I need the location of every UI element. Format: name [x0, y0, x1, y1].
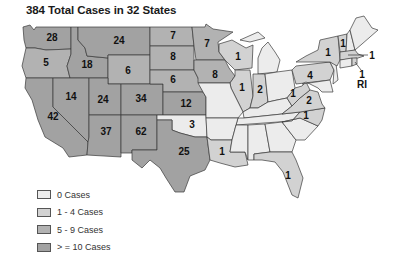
- label-AZ: 37: [100, 126, 112, 137]
- legend-item-high: > = 10 Cases: [37, 239, 111, 253]
- legend: 0 Cases 1 - 4 Cases 5 - 9 Cases > = 10 C…: [37, 186, 111, 253]
- legend-label: 1 - 4 Cases: [57, 207, 103, 217]
- label-PA: 4: [307, 70, 313, 81]
- label-IN: 2: [257, 84, 263, 95]
- label-WV: 1: [290, 88, 296, 99]
- legend-item-zero: 0 Cases: [37, 186, 111, 204]
- label-OR: 5: [43, 57, 49, 68]
- legend-label: > = 10 Cases: [57, 242, 111, 252]
- label-MN: 7: [204, 38, 210, 49]
- label-IL: 1: [239, 82, 245, 93]
- label-MT: 24: [113, 35, 125, 46]
- label-SD: 8: [170, 51, 176, 62]
- label-MA: 1: [369, 50, 375, 61]
- state-CT[interactable]: [340, 58, 352, 68]
- label-KS: 12: [180, 98, 192, 109]
- label-CA: 42: [47, 111, 59, 122]
- label-WA: 28: [46, 32, 58, 43]
- label-NC: 1: [303, 110, 309, 121]
- label-NY: 1: [325, 47, 331, 58]
- label-NE: 6: [170, 74, 176, 85]
- label-LA: 1: [219, 146, 225, 157]
- label-NM: 62: [135, 126, 147, 137]
- label-ND: 7: [170, 30, 176, 41]
- legend-label: 5 - 9 Cases: [57, 225, 103, 235]
- label-VT: 1: [340, 38, 346, 49]
- legend-swatch-zero: [37, 190, 51, 199]
- state-ME[interactable]: [350, 16, 378, 50]
- label-WI: 1: [235, 51, 241, 62]
- label-VA: 2: [306, 95, 312, 106]
- state-NY[interactable]: [296, 36, 340, 66]
- legend-swatch-high: [37, 243, 51, 252]
- label-WY: 6: [125, 65, 131, 76]
- label-UT: 24: [97, 94, 109, 105]
- label-FL: 1: [285, 170, 291, 181]
- state-RI[interactable]: [352, 58, 357, 66]
- label-IA: 8: [212, 69, 218, 80]
- state-FL[interactable]: [254, 152, 303, 198]
- label-CO: 34: [135, 93, 147, 104]
- label-NV: 14: [65, 91, 77, 102]
- legend-item-mid: 5 - 9 Cases: [37, 221, 111, 239]
- legend-label: 0 Cases: [57, 190, 90, 200]
- label-OK: 3: [189, 119, 195, 130]
- label-RI-abbr: RI: [357, 79, 367, 90]
- legend-swatch-low: [37, 208, 51, 217]
- label-TX: 25: [178, 146, 190, 157]
- legend-swatch-mid: [37, 225, 51, 234]
- label-ID: 18: [81, 59, 93, 70]
- legend-item-low: 1 - 4 Cases: [37, 204, 111, 222]
